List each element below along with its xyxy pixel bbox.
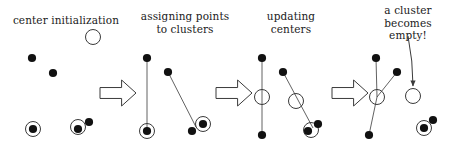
cluster-center-circle	[86, 30, 101, 45]
diagram-graphics	[0, 0, 449, 153]
assignment-lines-group	[147, 58, 397, 135]
data-point	[420, 124, 428, 132]
data-point	[29, 125, 37, 133]
assignment-line	[168, 72, 196, 127]
block-arrow-next-step	[100, 80, 136, 106]
kmeans-diagram: center initialization assigning points t…	[0, 0, 449, 153]
assignment-line	[283, 72, 313, 128]
data-point	[429, 116, 437, 124]
block-arrows-group	[100, 80, 368, 106]
data-point	[199, 120, 207, 128]
data-point	[314, 120, 322, 128]
data-point	[85, 118, 93, 126]
cluster-center-circle	[406, 89, 421, 104]
data-point	[28, 54, 36, 62]
data-points-group	[28, 54, 437, 139]
data-point	[49, 69, 57, 77]
data-point	[143, 54, 151, 62]
block-arrow-next-step	[332, 80, 368, 106]
data-point	[258, 54, 266, 62]
data-point	[279, 68, 287, 76]
data-point	[188, 127, 196, 135]
data-point	[143, 127, 151, 135]
data-point	[164, 68, 172, 76]
empty-cluster-pointer-arrow	[408, 36, 413, 86]
data-point	[365, 131, 373, 139]
assignment-line	[376, 58, 377, 97]
block-arrow-next-step	[216, 80, 252, 106]
data-point	[304, 127, 312, 135]
data-point	[74, 125, 82, 133]
data-point	[372, 54, 380, 62]
assignment-line	[369, 97, 377, 135]
annotation-arrow	[408, 36, 413, 86]
assignment-line	[377, 72, 397, 97]
data-point	[393, 68, 401, 76]
data-point	[258, 131, 266, 139]
